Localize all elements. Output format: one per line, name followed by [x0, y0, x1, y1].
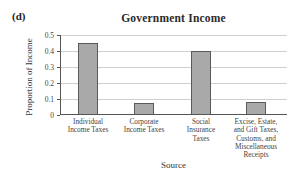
- y-axis: [60, 35, 61, 115]
- y-tick-label: 0.2: [34, 79, 54, 88]
- panel-label: (d): [12, 10, 25, 22]
- y-axis-title: Proportion of Income: [24, 27, 34, 127]
- y-tick-label: 0.3: [34, 63, 54, 72]
- y-tick-label: 0.1: [34, 95, 54, 104]
- bar-social-insurance-taxes: [191, 51, 211, 115]
- y-tick-label: 0.4: [34, 47, 54, 56]
- x-category-label: Excise, Estate,and Gift Taxes,Customs, a…: [224, 118, 288, 159]
- x-category-label: CorporateIncome Taxes: [112, 118, 176, 135]
- x-axis: [60, 114, 287, 115]
- y-tick: [57, 115, 60, 116]
- x-category-label: IndividualIncome Taxes: [56, 118, 120, 135]
- chart-title: Government Income: [60, 12, 287, 24]
- plot-area: [60, 35, 287, 115]
- bar-individual-income-taxes: [78, 43, 98, 115]
- x-axis-title: Source: [60, 160, 287, 170]
- y-tick-label: 0: [34, 111, 54, 120]
- gridline: [60, 35, 287, 36]
- y-tick-label: 0.5: [34, 31, 54, 40]
